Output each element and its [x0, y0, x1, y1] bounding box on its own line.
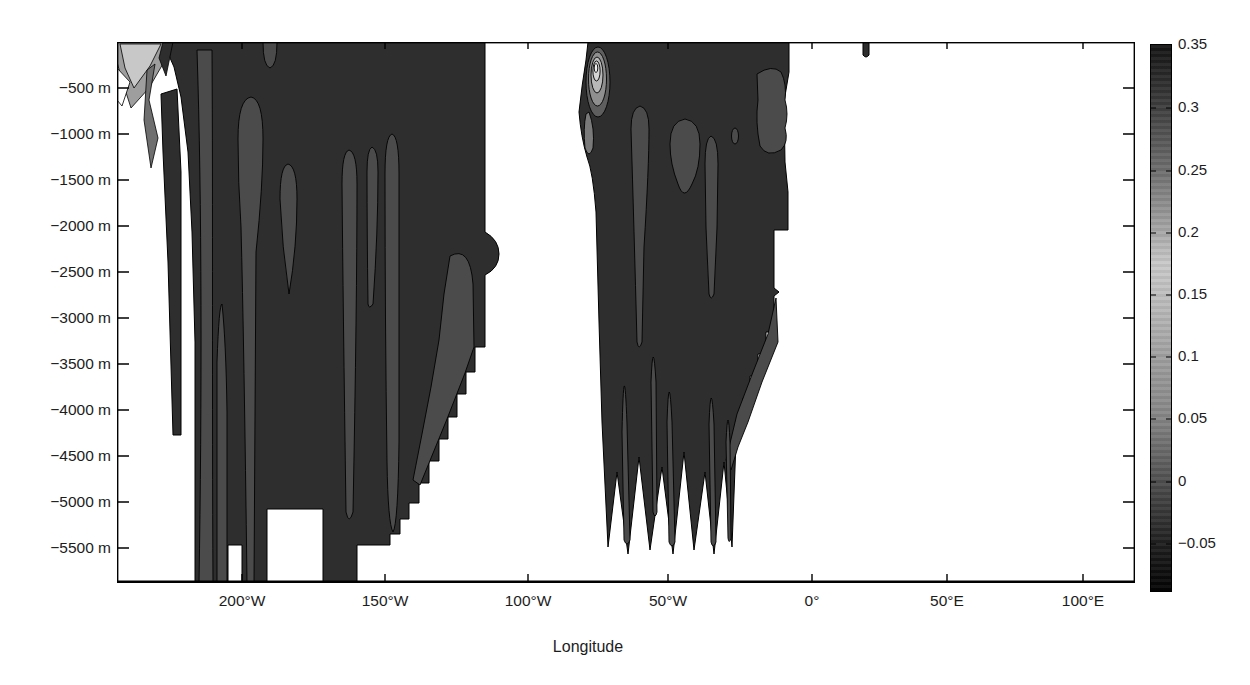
y-tick-label: −3000 m — [26, 309, 111, 327]
colorbar-tick-label: 0 — [1178, 472, 1238, 490]
y-tick-label: −2000 m — [26, 217, 111, 235]
y-tick-label: −4000 m — [26, 401, 111, 419]
isolated-sliver — [863, 42, 869, 57]
west-boundary-sliver — [161, 89, 181, 435]
colorbar-tick-label: 0.15 — [1178, 285, 1238, 303]
colorbar-tick-label: 0.1 — [1178, 347, 1238, 365]
x-tick-label: 200°W — [197, 592, 287, 610]
y-tick-label: −500 m — [26, 79, 111, 97]
y-tick-label: −1500 m — [26, 171, 111, 189]
colorbar-ticks — [1151, 45, 1171, 591]
contour-plot — [117, 42, 1135, 583]
colorbar-tick-label: 0.35 — [1178, 35, 1238, 53]
y-tick-label: −4500 m — [26, 447, 111, 465]
y-tick-label: −3500 m — [26, 355, 111, 373]
colorbar — [1150, 44, 1172, 592]
y-tick-label: −5500 m — [26, 539, 111, 557]
colorbar-tick-label: 0.3 — [1178, 98, 1238, 116]
y-tick-label: −2500 m — [26, 263, 111, 281]
colorbar-tick-label: 0.2 — [1178, 223, 1238, 241]
x-tick-label: 100°W — [483, 592, 573, 610]
y-tick-label: −5000 m — [26, 493, 111, 511]
x-axis-title: Longitude — [528, 638, 648, 656]
colorbar-tick-label: 0.05 — [1178, 409, 1238, 427]
x-tick-label: 100°E — [1038, 592, 1128, 610]
y-tick-label: −1000 m — [26, 125, 111, 143]
x-tick-label: 0° — [767, 592, 857, 610]
x-tick-label: 50°E — [902, 592, 992, 610]
figure: −500 m −1000 m −1500 m −2000 m −2500 m −… — [0, 0, 1250, 685]
x-tick-label: 150°W — [340, 592, 430, 610]
colorbar-tick-label: 0.25 — [1178, 161, 1238, 179]
x-tick-label: 50°W — [623, 592, 713, 610]
colorbar-tick-label: −0.05 — [1178, 534, 1238, 552]
